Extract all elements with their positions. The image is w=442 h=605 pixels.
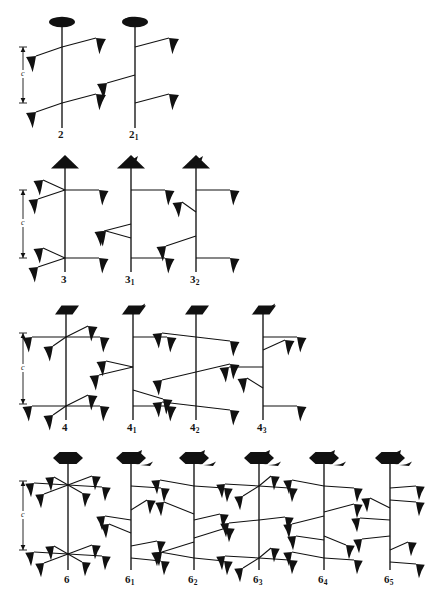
arm-6sub5-3-barb (351, 518, 360, 532)
arm-6sub3-5-stick (229, 520, 259, 523)
arm-4sub2-3-stick (162, 372, 196, 380)
arm-6sub4-6-barb (354, 560, 363, 574)
arm-4-6-barb (88, 395, 98, 411)
arm-3sub1-3-barb (165, 258, 175, 274)
axis-label-lab-2: 2 (58, 128, 64, 140)
axis-label-lab-21: 21 (129, 128, 138, 140)
arm-6sub2-1-stick (160, 480, 194, 486)
arm-6sub3-1-barb (216, 484, 225, 498)
head-6sub3 (244, 450, 281, 466)
arm-4sub2-0-barb (230, 341, 240, 357)
arm-6sub4-3-barb (283, 524, 292, 538)
arm-4-5-barb (23, 406, 33, 422)
arm-6sub3-2-stick (259, 476, 271, 486)
head-6sub1 (116, 450, 153, 466)
label-main: 4 (127, 421, 133, 433)
arm-4sub2-3-barb (153, 380, 163, 396)
screw-tail (122, 17, 138, 21)
arm-2-2-barb (96, 94, 106, 110)
square-symbol (55, 306, 79, 315)
triangle-symbol (51, 155, 79, 169)
label-subscript: 5 (390, 578, 394, 587)
c-dimension-label: c (20, 511, 26, 519)
arm-6sub2-2-stick (164, 502, 194, 514)
arm-6sub1-2-stick (105, 516, 131, 520)
hexagon-symbol (375, 452, 405, 464)
c-dimension-label: c (20, 70, 26, 78)
c-arrow-top (21, 333, 26, 338)
head-3sub1 (116, 155, 145, 169)
arm-6-8-stick (68, 545, 92, 554)
arm-4sub3-2-barb (220, 367, 230, 383)
arm-6sub2-6-barb (224, 561, 233, 575)
arm-2-1-barb (26, 56, 36, 72)
axis-label-lab-4: 4 (62, 421, 68, 433)
arms-3 (29, 180, 109, 283)
arm-6sub3-7-barb (216, 556, 225, 570)
head-4sub2 (185, 306, 209, 315)
head-4sub3 (251, 304, 276, 315)
arm-4-7-stick (53, 406, 66, 415)
label-subscript: 2 (194, 578, 198, 587)
label-main: 6 (64, 573, 70, 585)
head-3 (51, 155, 79, 169)
axis-label-lab-63: 63 (253, 573, 262, 585)
arm-6sub3-8-barb (271, 548, 280, 562)
arm-4sub1-1-stick (106, 361, 133, 367)
arm-6sub1-3-stick (109, 524, 131, 533)
arm-4sub3-1-stick (263, 340, 285, 350)
arm-4sub2-0-stick (196, 337, 230, 341)
arm-6-9-barb (35, 563, 44, 577)
arm-2-0-stick (62, 38, 96, 47)
arm-3sub1-2-stick (106, 231, 131, 238)
arm-6sub5-3-stick (360, 518, 390, 520)
label-subscript: 1 (135, 133, 139, 142)
arm-4-3-stick (53, 337, 66, 346)
arm-6sub4-0-stick (324, 486, 354, 488)
arm-6sub5-6-stick (390, 562, 416, 564)
arm-4sub2-4-stick (196, 406, 230, 410)
head-2 (49, 17, 75, 27)
axis-label-lab-42: 42 (190, 421, 199, 433)
label-subscript: 1 (131, 278, 135, 287)
arm-6sub3-8-stick (259, 548, 271, 558)
head-6sub5 (375, 450, 412, 466)
arm-4sub2-4-barb (230, 410, 240, 426)
arms-2 (26, 38, 106, 128)
label-main: 6 (188, 573, 194, 585)
arm-6sub5-6-barb (416, 564, 425, 578)
c-arrow-bottom (21, 545, 26, 550)
arm-6sub3-4-stick (259, 517, 285, 520)
head-6sub4 (309, 450, 346, 466)
arm-6sub5-4-barb (353, 539, 362, 553)
arm-4sub3-3-barb (238, 378, 248, 394)
c-arrow-top (21, 190, 26, 195)
axis-label-lab-32: 32 (190, 273, 199, 285)
label-main: 6 (318, 573, 324, 585)
arm-6-0-barb (102, 487, 111, 501)
arm-6sub4-5-stick (296, 536, 324, 540)
label-subscript: 1 (133, 426, 137, 435)
head-6 (53, 452, 83, 464)
arm-2sub1-2-stick (135, 94, 169, 103)
arm-4sub2-5-barb (153, 402, 163, 418)
label-main: 6 (125, 573, 131, 585)
arm-6sub2-7-stick (160, 552, 194, 558)
label-main: 2 (129, 128, 135, 140)
arm-3sub1-1-stick (104, 224, 131, 231)
label-subscript: 2 (196, 426, 200, 435)
axis-label-lab-64: 64 (318, 573, 327, 585)
axis-label-lab-41: 41 (127, 421, 136, 433)
arm-4sub1-4-barb (167, 406, 177, 422)
arm-6sub3-3-stick (243, 486, 259, 496)
arm-6sub3-9-stick (243, 558, 259, 568)
arm-6sub2-0-barb (224, 488, 233, 502)
head-2sub1 (122, 17, 148, 27)
arm-3sub2-1-barb (173, 202, 183, 218)
arm-6sub5-1-barb (416, 502, 425, 516)
arm-6sub2-5-stick (162, 542, 194, 552)
arm-3-4-barb (29, 267, 39, 283)
arm-2-0-barb (96, 38, 106, 54)
arm-6sub4-4-barb (346, 545, 355, 559)
arm-6sub1-1-stick (131, 500, 147, 510)
